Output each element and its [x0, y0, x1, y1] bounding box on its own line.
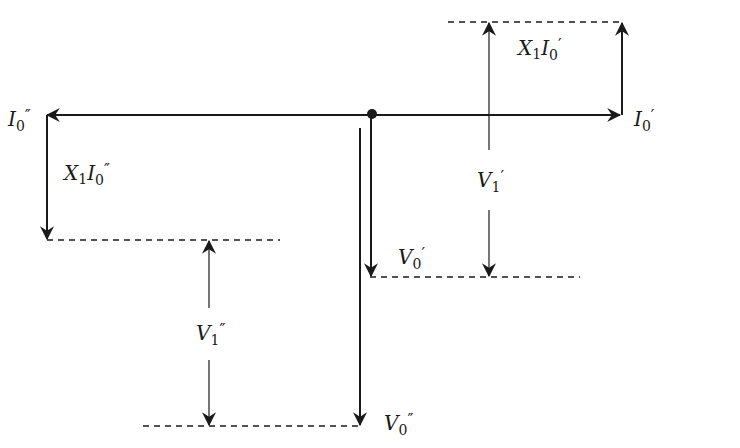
label-x1i0-double-prime: X1I0″ [62, 160, 110, 188]
label-v1-prime: V1′ [477, 167, 504, 195]
phasor-diagram: I0′ I0″ X1I0′ X1I0″ V1′ V0′ V1″ V0″ [0, 0, 740, 448]
label-x1i0-prime: X1I0′ [516, 35, 562, 63]
label-i0-prime: I0′ [633, 106, 655, 134]
label-v0-prime: V0′ [398, 244, 425, 272]
label-v0-double-prime: V0″ [384, 410, 413, 438]
label-v1-double-prime: V1″ [196, 320, 225, 348]
label-i0-double-prime: I0″ [7, 106, 31, 134]
